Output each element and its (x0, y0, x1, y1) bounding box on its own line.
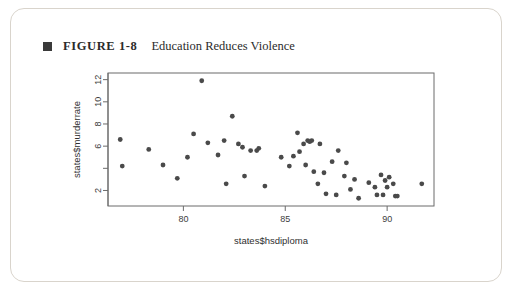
data-point (303, 163, 308, 168)
data-point (205, 140, 210, 145)
data-point (379, 173, 384, 178)
screenshot-root: FIGURE 1-8 Education Reduces Violence 26… (0, 0, 512, 293)
data-point (330, 159, 335, 164)
data-point (279, 155, 284, 160)
data-point (175, 176, 180, 181)
data-point (216, 153, 221, 158)
x-tick-label: 85 (280, 214, 290, 224)
y-tick-label: 8 (93, 121, 103, 126)
data-point (262, 184, 267, 189)
data-point (366, 180, 371, 185)
data-point (297, 149, 302, 154)
data-point (336, 148, 341, 153)
data-point (309, 138, 314, 143)
x-tick-label: 90 (382, 214, 392, 224)
axis-titles: states$hsdiplomastates$murderrate (71, 101, 309, 246)
data-point (322, 170, 327, 175)
data-point (381, 193, 386, 198)
data-point (383, 178, 388, 183)
figure-card: FIGURE 1-8 Education Reduces Violence 26… (10, 8, 502, 282)
x-axis: 808590 (178, 206, 392, 224)
data-point (419, 181, 424, 186)
y-tick-label: 6 (93, 144, 103, 149)
x-tick-label: 80 (178, 214, 188, 224)
data-point (385, 185, 390, 190)
data-point (248, 148, 253, 153)
data-point (391, 181, 396, 186)
data-point (224, 181, 229, 186)
data-point (291, 154, 296, 159)
data-point (295, 130, 300, 135)
data-point (118, 137, 123, 142)
data-point (199, 78, 204, 83)
data-point (191, 132, 196, 137)
data-point (342, 174, 347, 179)
data-point (356, 196, 361, 201)
data-point (373, 185, 378, 190)
y-tick-label: 2 (93, 188, 103, 193)
data-point (120, 164, 125, 169)
y-tick-label: 12 (93, 75, 103, 85)
data-point (256, 146, 261, 151)
data-point (161, 163, 166, 168)
data-point (334, 193, 339, 198)
data-points (118, 78, 424, 200)
data-point (236, 142, 241, 147)
y-axis-title: states$murderrate (71, 101, 82, 178)
data-point (301, 142, 306, 147)
data-point (311, 169, 316, 174)
data-point (375, 193, 380, 198)
data-point (222, 138, 227, 143)
data-point (348, 187, 353, 192)
data-point (324, 191, 329, 196)
data-point (146, 147, 151, 152)
data-point (318, 142, 323, 147)
data-point (242, 174, 247, 179)
y-tick-label: 10 (93, 97, 103, 107)
data-point (240, 145, 245, 150)
data-point (395, 194, 400, 199)
scatter-plot-canvas: 2681012 808590 states$hsdiplomastates$mu… (11, 9, 503, 283)
data-point (185, 155, 190, 160)
data-point (344, 160, 349, 165)
data-point (387, 175, 392, 180)
data-point (352, 177, 357, 182)
data-point (287, 164, 292, 169)
y-axis: 2681012 (93, 73, 108, 206)
scatter-plot: 2681012 808590 states$hsdiplomastates$mu… (11, 9, 503, 283)
data-point (315, 181, 320, 186)
x-axis-title: states$hsdiploma (234, 235, 309, 246)
data-point (230, 114, 235, 119)
